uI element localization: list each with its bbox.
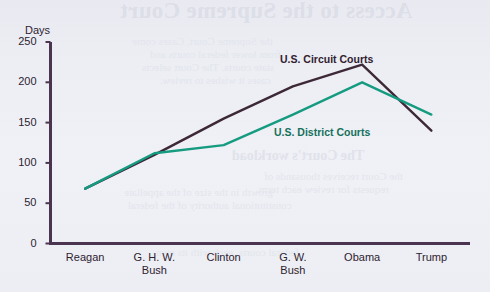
y-tick-label: 0 [9,237,37,249]
x-tick-label-ghw-bush: G. H. W. Bush [134,251,176,277]
axis-lines [49,42,470,244]
series-label-circuit-courts: U.S. Circuit Courts [280,53,373,65]
x-tick-label-trump: Trump [416,251,447,264]
y-tick-label: 50 [9,196,37,208]
y-tick-label: 200 [9,75,37,87]
y-tick-label: 250 [9,35,37,47]
series-label-district-courts: U.S. District Courts [274,126,370,138]
chart-container: Access to the Supreme Court The Court's … [0,0,490,292]
plot-area [0,0,490,292]
x-tick-label-reagan: Reagan [66,251,105,264]
x-tick-label-gw-bush: G. W. Bush [279,251,307,277]
x-tick-label-clinton: Clinton [207,251,241,264]
y-tick-label: 100 [9,156,37,168]
series-line-district-courts [85,82,431,188]
data-series-group [85,65,431,189]
y-tick-label: 150 [9,116,37,128]
series-line-circuit-courts [85,65,431,189]
x-tick-label-obama: Obama [344,251,380,264]
